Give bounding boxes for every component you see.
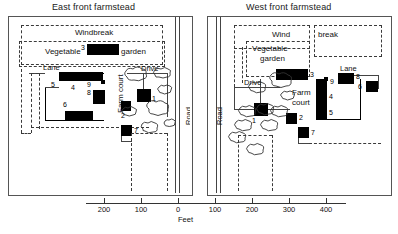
scale-tick-1 bbox=[141, 198, 142, 203]
building-number-9-west: 9 bbox=[330, 78, 334, 85]
panel-title-east: East front farmstead bbox=[52, 2, 135, 12]
field-west-left-edge bbox=[234, 41, 235, 87]
building-4-5-bar-west bbox=[316, 79, 327, 119]
windbreak-label-east: Windbreak bbox=[75, 29, 113, 37]
field-east-left-edge bbox=[21, 69, 22, 133]
windbreak-hatch-west-right-top bbox=[315, 24, 379, 29]
farmstead-comparison-figure: East front farmstead West front farmstea… bbox=[0, 0, 398, 234]
scale-label-5: 300 bbox=[283, 205, 296, 214]
scale-axis-line bbox=[86, 203, 346, 204]
building-9-west bbox=[324, 77, 328, 81]
building-number-3-east: 3 bbox=[81, 44, 85, 51]
scale-tick-6 bbox=[326, 198, 327, 203]
windbreak-hatch-west-right-mid bbox=[315, 41, 379, 46]
building-number-9-east: 9 bbox=[87, 81, 91, 88]
building-6-east bbox=[65, 111, 93, 120]
field-east-left-bottom bbox=[21, 133, 31, 134]
building-number-5-east: 5 bbox=[51, 81, 55, 88]
road-label-west: Road bbox=[216, 107, 224, 125]
building-8-west bbox=[338, 73, 354, 84]
garden-label-west-line2: garden bbox=[260, 55, 285, 63]
building-number-8-west: 8 bbox=[356, 73, 360, 80]
scale-tick-3 bbox=[215, 198, 216, 203]
field-east-left-edge3 bbox=[39, 73, 40, 129]
garden-label-west-line1: Vegetable bbox=[252, 45, 288, 53]
building-8-east bbox=[93, 90, 105, 104]
scale-label-2: 0 bbox=[176, 205, 180, 214]
lane-line-west-vert bbox=[378, 75, 379, 89]
windbreak-hatch-west-left bbox=[235, 24, 307, 29]
scale-label-0: 200 bbox=[98, 205, 111, 214]
scale-tick-4 bbox=[252, 198, 253, 203]
tree-cluster-east-lower bbox=[109, 99, 181, 145]
tree-west-field bbox=[242, 139, 268, 159]
scale-bar: 200 100 0 100 200 300 400 Feet bbox=[86, 198, 346, 232]
scale-label-3: 100 bbox=[209, 205, 222, 214]
windbreak-label-west-right: break bbox=[318, 31, 338, 39]
field-west-lower-right-line bbox=[309, 143, 381, 144]
building-number-5-west: 5 bbox=[329, 109, 333, 116]
building-number-6-east: 6 bbox=[63, 101, 67, 108]
scale-label-1: 100 bbox=[135, 205, 148, 214]
building-5-bar-east bbox=[59, 72, 103, 81]
panel-west: Road bbox=[207, 16, 392, 196]
building-number-4-east: 4 bbox=[71, 84, 75, 91]
road-label-east: Road bbox=[185, 107, 190, 125]
building-number-7-west: 7 bbox=[311, 129, 315, 136]
building-number-3-west: 3 bbox=[310, 71, 314, 78]
building-3-east bbox=[87, 44, 119, 55]
building-6-west bbox=[366, 81, 378, 92]
building-number-4-west: 4 bbox=[329, 93, 333, 100]
scale-label-4: 200 bbox=[246, 205, 259, 214]
panel-title-west: West front farmstead bbox=[246, 2, 331, 12]
field-west-left-edge2 bbox=[242, 47, 243, 83]
building-number-6-west: 6 bbox=[358, 83, 362, 90]
road-west-line-inner bbox=[220, 17, 221, 193]
scale-tick-5 bbox=[289, 198, 290, 203]
field-east-left-edge2 bbox=[31, 73, 32, 133]
field-east-left-top bbox=[31, 73, 39, 74]
building-number-8-east: 8 bbox=[87, 89, 91, 96]
scale-tick-2 bbox=[178, 198, 179, 203]
scale-tick-0 bbox=[104, 198, 105, 203]
panel-east-canvas: Road Windbreak Ve bbox=[9, 17, 190, 193]
panel-west-canvas: Road bbox=[208, 17, 389, 193]
garden-label-east-right: garden bbox=[121, 48, 146, 56]
scale-label-6: 400 bbox=[320, 205, 333, 214]
building-9-east bbox=[101, 80, 105, 84]
road-west-line-outer bbox=[216, 17, 217, 193]
windbreak-label-west-left: Wind bbox=[272, 31, 290, 39]
garden-label-east-left: Vegetable bbox=[45, 48, 81, 56]
tree-east-field bbox=[43, 131, 83, 153]
lane-label-west: Lane bbox=[340, 65, 357, 73]
scale-unit-label: Feet bbox=[178, 215, 193, 224]
lane-label-east: Lane bbox=[43, 64, 60, 72]
panel-east: Road Windbreak Ve bbox=[8, 16, 193, 196]
